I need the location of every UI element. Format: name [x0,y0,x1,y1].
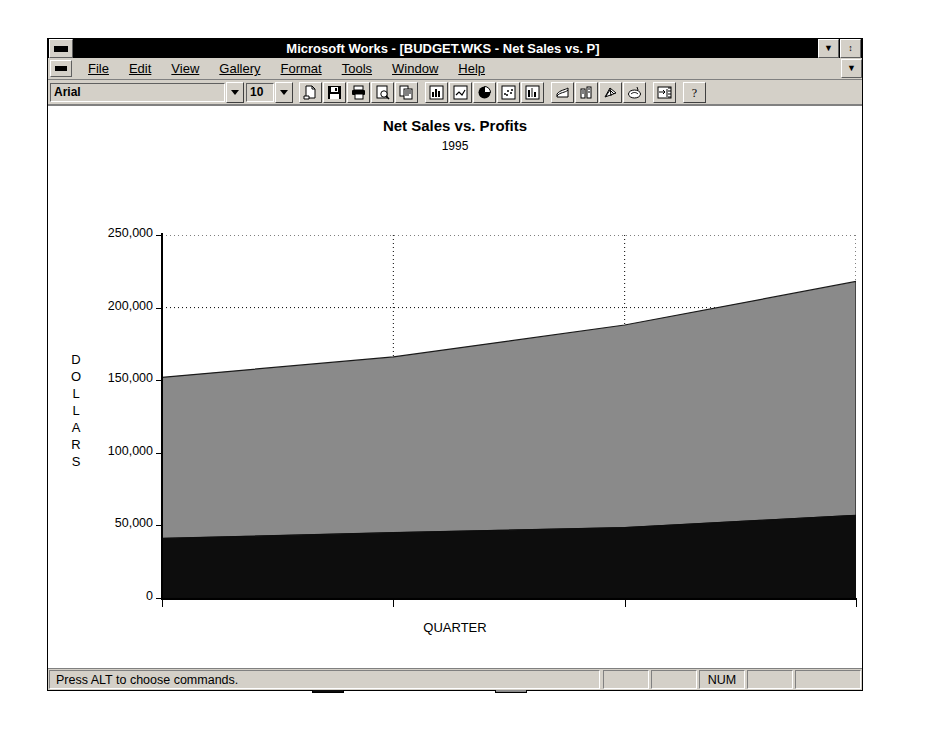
3d-bar-chart-icon[interactable] [575,82,598,103]
toolbar: Arial 10 [48,80,862,105]
y-axis-tick-label-text: 0 [48,589,153,603]
menu-item-file-label: File [88,61,109,76]
stacked-bar-chart-icon[interactable] [521,82,544,103]
pie-chart-icon[interactable] [473,82,496,103]
help-icon[interactable]: ? [683,82,706,103]
y-axis-label-letter: L [68,402,84,419]
document-menu-icon[interactable] [50,60,72,77]
window-menu-icon[interactable] [49,39,73,58]
toolbar-group-help: ? [683,82,707,103]
x-axis-tick [856,600,857,607]
toolbar-group-misc [653,82,677,103]
combo-chart-icon[interactable] [623,82,646,103]
window-title: Microsoft Works - [BUDGET.WKS - Net Sale… [73,41,817,56]
menu-item-gallery[interactable]: Gallery [209,60,270,77]
copy-icon[interactable] [395,82,418,103]
menu-item-edit[interactable]: Edit [119,60,161,77]
y-axis-line [161,233,163,600]
menu-item-file[interactable]: File [78,60,119,77]
menu-item-tools[interactable]: Tools [332,60,382,77]
application-window: Microsoft Works - [BUDGET.WKS - Net Sale… [47,38,863,691]
font-size-value: 10 [247,85,263,99]
y-axis-tick-label-text: 250,000 [48,226,153,240]
x-axis-tick [625,600,626,607]
y-axis-tick-label: 0 [48,589,153,603]
status-panel-2 [651,670,697,689]
first-chart-icon[interactable] [653,82,676,103]
font-size-dropdown-icon[interactable] [275,82,293,103]
x-axis-tick [393,600,394,607]
chart-title: Net Sales vs. Profits [48,117,862,134]
title-bar: Microsoft Works - [BUDGET.WKS - Net Sale… [48,39,862,58]
font-name-dropdown-icon[interactable] [226,82,244,103]
y-axis-tick-label: 150,000 [48,371,153,385]
font-name-input[interactable]: Arial [50,83,225,102]
y-axis-tick-label-text: 150,000 [48,371,153,385]
y-axis-label-letter: L [68,385,84,402]
minimize-button[interactable]: ▼ [818,39,839,58]
menu-item-window[interactable]: Window [382,60,448,77]
menu-item-format-label: Format [281,61,322,76]
status-message: Press ALT to choose commands. [49,670,600,689]
y-axis-tick-label-text: 100,000 [48,444,153,458]
status-panel-4 [747,670,793,689]
y-axis-tick-label: 200,000 [48,299,153,313]
print-preview-icon[interactable] [371,82,394,103]
menu-item-tools-label: Tools [342,61,372,76]
radar-chart-icon[interactable] [599,82,622,103]
area-chart-icon[interactable] [551,82,574,103]
font-name-value: Arial [51,85,81,99]
x-axis-line [161,598,857,600]
menu-bar: File Edit View Gallery Format Tools Wind… [48,58,862,80]
menu-item-view[interactable]: View [161,60,209,77]
scatter-chart-icon[interactable] [497,82,520,103]
new-document-icon[interactable] [299,82,322,103]
menu-item-help[interactable]: Help [448,60,495,77]
y-axis-label-letter: A [68,419,84,436]
print-icon[interactable] [347,82,370,103]
chart-client-area: Net Sales vs. Profits 1995 D O L L A R S… [48,105,862,671]
save-icon[interactable] [323,82,346,103]
window-controls: ▼ ↕ [817,39,861,58]
bar-chart-icon[interactable] [425,82,448,103]
toolbar-group-chart-styles [551,82,647,103]
menu-item-gallery-label: Gallery [219,61,260,76]
status-panel-num: NUM [699,670,745,689]
document-restore-button[interactable]: ▼ [841,59,862,78]
status-panel-1 [603,670,649,689]
y-axis-tick-label: 100,000 [48,444,153,458]
line-chart-icon[interactable] [449,82,472,103]
y-axis-tick-label: 50,000 [48,516,153,530]
y-axis-tick-label-text: 50,000 [48,516,153,530]
menu-item-help-label: Help [458,61,485,76]
status-bar: Press ALT to choose commands. NUM [48,668,862,690]
plot-area [162,235,856,598]
menu-item-window-label: Window [392,61,438,76]
toolbar-group-charts [425,82,545,103]
menu-item-format[interactable]: Format [271,60,332,77]
restore-button[interactable]: ↕ [840,39,861,58]
svg-text:?: ? [692,86,697,100]
status-panel-5 [795,670,861,689]
toolbar-group-file [299,82,419,103]
chart-subtitle: 1995 [48,139,862,153]
x-axis-label: QUARTER [48,620,862,635]
x-axis-tick [162,600,163,607]
y-axis-tick-label: 250,000 [48,226,153,240]
font-size-input[interactable]: 10 [246,83,274,102]
menu-item-view-label: View [171,61,199,76]
menu-item-edit-label: Edit [129,61,151,76]
y-axis-label-letter: D [68,351,84,368]
y-axis-tick-label-text: 200,000 [48,299,153,313]
